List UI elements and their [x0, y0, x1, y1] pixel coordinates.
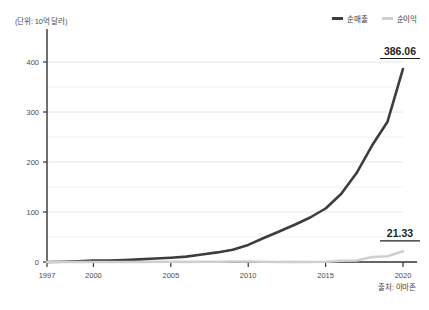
x-tick-label: 2015	[317, 271, 334, 280]
x-tick-label: 1997	[39, 271, 56, 280]
tick-labels: 0100200300400199720002005201020152020	[26, 58, 411, 280]
x-tick-label: 2020	[395, 271, 412, 280]
net-income-end-value: 21.33	[387, 227, 413, 239]
y-tick-label: 400	[26, 58, 39, 67]
x-tick-label: 2005	[162, 271, 179, 280]
line-chart-plot: 0100200300400199720002005201020152020 38…	[0, 0, 429, 310]
y-tick-label: 200	[26, 158, 39, 167]
x-tick-label: 2010	[240, 271, 257, 280]
data-series	[47, 69, 403, 262]
y-tick-label: 300	[26, 108, 39, 117]
y-tick-label: 0	[35, 258, 39, 267]
value-annotations: 386.0621.33	[380, 45, 420, 241]
gridlines	[47, 62, 403, 237]
chart-figure: (단위: 10억 달러) 순매출 순이익 0100200300400199720…	[0, 0, 429, 310]
y-tick-label: 100	[26, 208, 39, 217]
axes	[43, 29, 417, 267]
series-line-net-sales	[47, 69, 403, 262]
net-sales-end-value: 386.06	[384, 45, 416, 57]
x-tick-label: 2000	[85, 271, 102, 280]
source-note: 출처: 아마존	[378, 281, 416, 292]
